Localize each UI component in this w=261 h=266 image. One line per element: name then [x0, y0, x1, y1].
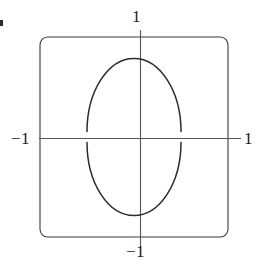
- ellipse-upper-arc: [87, 59, 181, 132]
- axis-label-top: 1: [132, 8, 141, 25]
- axis-label-bottom: −1: [126, 243, 145, 260]
- plot-frame: [40, 37, 228, 237]
- ellipse-diagram-graphic: [0, 0, 261, 266]
- figure-container: 1 −1 −1 1: [0, 0, 261, 266]
- axis-label-right: 1: [244, 130, 253, 147]
- axis-label-left: −1: [11, 130, 30, 147]
- ellipse-lower-arc: [87, 143, 181, 216]
